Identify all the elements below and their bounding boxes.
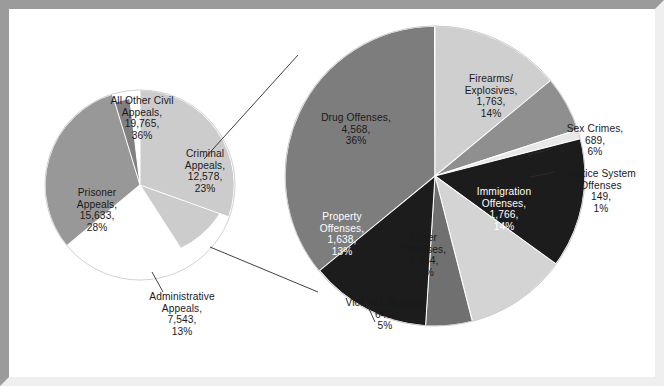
right-label-firearms-explosives: Firearms/ Explosives, 1,763, 14% (449, 73, 533, 120)
left-label-prisoner-appeals: Prisoner Appeals, 15,633, 28% (52, 187, 142, 234)
right-label-justice-system-offenses: Justice System Offenses 149, 1% (551, 168, 651, 215)
right-label-immigration-offenses: Immigration Offenses, 1,766, 14% (458, 186, 550, 233)
right-label-property-offenses: Property Offenses, 1,638, 13% (302, 211, 382, 258)
right-label-drug-offenses: Drug Offenses, 4,568, 36% (304, 112, 408, 147)
right-label-sex-crimes: Sex Crimes, 689, 6% (553, 123, 637, 158)
right-label-violent-offenses: Violent Offenses, 641, 5% (330, 297, 440, 332)
explode-leader-top (204, 55, 298, 159)
left-label-administrative-appeals: Administrative Appeals, 7,543, 13% (124, 291, 240, 338)
left-label-all-other-civil-appeals: All Other Civil Appeals, 19,765, 36% (72, 95, 212, 142)
left-leader-administrative (152, 272, 163, 292)
right-label-other-offenses: Other Offenses, 1,364, 11% (386, 232, 462, 279)
left-label-criminal-appeals: Criminal Appeals, 12,578, 23% (160, 148, 250, 195)
